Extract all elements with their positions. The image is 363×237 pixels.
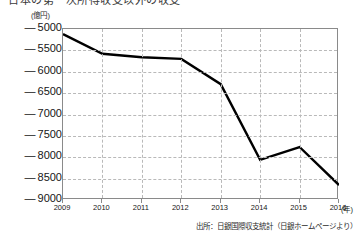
minus-sign-icon: — bbox=[25, 43, 36, 54]
y-axis-tick-value: 6500 bbox=[38, 85, 62, 97]
gridline-horizontal bbox=[63, 115, 337, 116]
y-axis-tick-value: 5500 bbox=[38, 42, 62, 54]
y-axis-tick-value: 6000 bbox=[38, 64, 62, 76]
gridline-horizontal bbox=[63, 93, 337, 94]
minus-sign-icon: — bbox=[25, 22, 36, 33]
gridline-vertical bbox=[221, 29, 222, 198]
gridline-vertical bbox=[260, 29, 261, 198]
y-axis-tick-label: —5500 bbox=[0, 43, 62, 54]
gridline-horizontal bbox=[63, 157, 337, 158]
x-axis-unit-label: (年) bbox=[341, 203, 353, 214]
x-axis-tick-label: 2015 bbox=[279, 203, 319, 212]
x-axis-tick-label: 2012 bbox=[160, 203, 200, 212]
y-axis-tick-value: 8500 bbox=[38, 171, 62, 183]
gridline-horizontal bbox=[63, 50, 337, 51]
minus-sign-icon: — bbox=[25, 193, 36, 204]
gridline-vertical bbox=[142, 29, 143, 198]
y-axis-tick-label: —6500 bbox=[0, 86, 62, 97]
y-axis-tick-value: 7500 bbox=[38, 128, 62, 140]
gridline-horizontal bbox=[63, 179, 337, 180]
x-axis-tick-label: 2014 bbox=[239, 203, 279, 212]
chart-figure: 日本の第一次所得収支以外の収支 (億円) —5000—5500—6000—650… bbox=[0, 0, 363, 237]
y-axis-tick-value: 8000 bbox=[38, 149, 62, 161]
x-axis-tick-label: 2011 bbox=[121, 203, 161, 212]
y-axis-tick-label: —8000 bbox=[0, 150, 62, 161]
y-axis-tick-value: 5000 bbox=[38, 21, 62, 33]
y-axis-tick-label: —7500 bbox=[0, 129, 62, 140]
y-axis-tick-label: —6000 bbox=[0, 65, 62, 76]
y-axis-tick-labels: —5000—5500—6000—6500—7000—7500—8000—8500… bbox=[0, 0, 62, 237]
x-axis-tick-label: 2010 bbox=[81, 203, 121, 212]
minus-sign-icon: — bbox=[25, 65, 36, 76]
minus-sign-icon: — bbox=[25, 129, 36, 140]
gridline-vertical bbox=[102, 29, 103, 198]
y-axis-tick-label: —7000 bbox=[0, 108, 62, 119]
x-axis-tick-label: 2009 bbox=[42, 203, 82, 212]
plot-area bbox=[62, 28, 338, 199]
minus-sign-icon: — bbox=[25, 86, 36, 97]
minus-sign-icon: — bbox=[25, 172, 36, 183]
y-axis-tick-label: —8500 bbox=[0, 172, 62, 183]
source-note: 出所：日銀国際収支統計（日銀ホームページより） bbox=[196, 220, 357, 231]
minus-sign-icon: — bbox=[25, 150, 36, 161]
minus-sign-icon: — bbox=[25, 108, 36, 119]
gridline-horizontal bbox=[63, 136, 337, 137]
gridline-horizontal bbox=[63, 72, 337, 73]
gridline-vertical bbox=[181, 29, 182, 198]
x-axis-tick-label: 2013 bbox=[200, 203, 240, 212]
y-axis-tick-value: 7000 bbox=[38, 107, 62, 119]
gridline-vertical bbox=[300, 29, 301, 198]
y-axis-tick-label: —5000 bbox=[0, 22, 62, 33]
line-series-path bbox=[63, 34, 339, 185]
